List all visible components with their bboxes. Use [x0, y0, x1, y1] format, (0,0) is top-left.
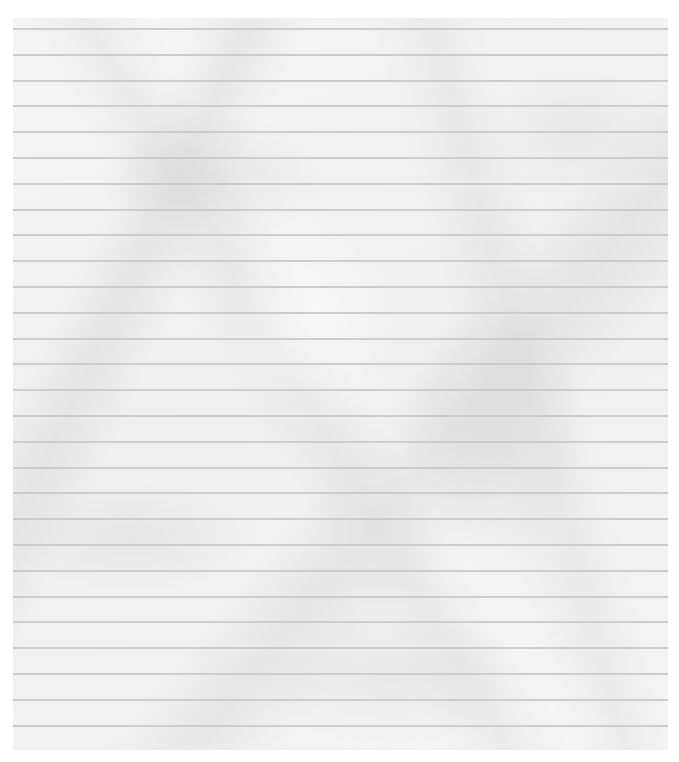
- ruled-line: [13, 338, 668, 340]
- ruled-line: [13, 518, 668, 520]
- ruled-line: [13, 415, 668, 417]
- ruled-line: [13, 467, 668, 469]
- ruled-line: [13, 105, 668, 107]
- ruled-line: [13, 647, 668, 649]
- ruled-line: [13, 725, 668, 727]
- ruled-line: [13, 621, 668, 623]
- ruled-line: [13, 260, 668, 262]
- ruled-line: [13, 570, 668, 572]
- ruled-line: [13, 234, 668, 236]
- ruled-line: [13, 673, 668, 675]
- ruled-line: [13, 441, 668, 443]
- ruled-line: [13, 389, 668, 391]
- ruled-line: [13, 286, 668, 288]
- canvas: [0, 0, 679, 762]
- ruled-line: [13, 699, 668, 701]
- ruled-line: [13, 312, 668, 314]
- ruled-line: [13, 209, 668, 211]
- ruled-line: [13, 54, 668, 56]
- ruled-line: [13, 363, 668, 365]
- ruled-lines: [13, 18, 668, 750]
- lined-paper-sheet: [13, 18, 668, 750]
- ruled-line: [13, 157, 668, 159]
- ruled-line: [13, 596, 668, 598]
- ruled-line: [13, 492, 668, 494]
- ruled-line: [13, 131, 668, 133]
- ruled-line: [13, 544, 668, 546]
- ruled-line: [13, 183, 668, 185]
- ruled-line: [13, 80, 668, 82]
- ruled-line: [13, 28, 668, 30]
